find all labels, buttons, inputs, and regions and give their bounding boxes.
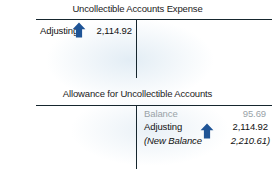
- entry-amount: 2,114.92: [220, 121, 268, 132]
- entry-label: Balance: [144, 108, 178, 119]
- t-account-allowance-for-uncollectible-accounts: Allowance for Uncollectible Accounts Bal…: [0, 85, 275, 169]
- entry-label: (New Balance: [144, 135, 202, 146]
- t-account-vertical-rule: [136, 19, 137, 78]
- up-arrow-icon: [72, 22, 86, 38]
- t-account-horizontal-rule: [36, 105, 272, 106]
- entry-label: Adjusting: [144, 121, 182, 132]
- t-account-vertical-rule: [136, 105, 137, 169]
- ledger-entry-row: Balance 95.69: [144, 108, 268, 120]
- t-account-horizontal-rule: [36, 19, 272, 20]
- entry-amount: 2,114.92: [88, 25, 132, 36]
- account-title: Uncollectible Accounts Expense: [0, 3, 275, 14]
- entry-amount: 2,210.61): [216, 135, 270, 146]
- t-account-uncollectible-accounts-expense: Uncollectible Accounts Expense Adjusting…: [0, 0, 275, 85]
- entry-amount: 95.69: [222, 108, 266, 119]
- ledger-entry-row: Adjusting 2,114.92: [40, 25, 132, 37]
- up-arrow-icon: [200, 123, 214, 139]
- account-title: Allowance for Uncollectible Accounts: [0, 88, 275, 99]
